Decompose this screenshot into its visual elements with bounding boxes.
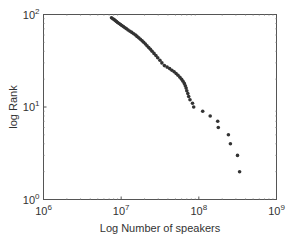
data-point [160,61,164,65]
data-point [192,105,196,109]
data-point [236,154,240,158]
data-point [238,170,242,174]
data-point [217,126,221,130]
data-point [227,133,231,137]
data-point [229,142,233,146]
data-point [187,95,191,99]
data-point [191,101,195,105]
data-point [201,109,205,113]
scatter-chart: 106107108109 100101102 Log Number of spe… [0,0,296,241]
y-axis-label: log Rank [7,85,19,129]
data-point [208,114,212,118]
data-point [188,98,192,102]
x-axis-label: Log Number of speakers [100,222,221,234]
data-point [216,120,220,124]
